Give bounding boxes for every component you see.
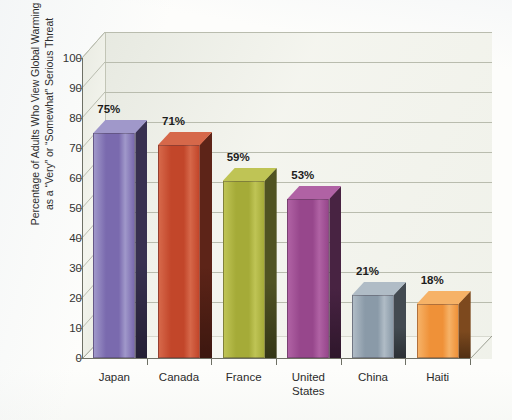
plot-area [82, 20, 492, 365]
x-axis-tick [211, 359, 212, 365]
x-axis-tick [147, 359, 148, 365]
bar-front-face [93, 133, 135, 358]
bar-column[interactable] [93, 120, 147, 358]
bar-value-label: 75% [97, 103, 120, 115]
bar-side-face [200, 132, 212, 358]
bar-value-label: 59% [227, 151, 250, 163]
bar-side-face [394, 282, 406, 358]
bar-column[interactable] [223, 168, 277, 358]
bar-column[interactable] [158, 132, 212, 358]
bar-front-face [223, 181, 265, 358]
x-axis-category-label: Haiti [393, 370, 483, 384]
bar-side-face [265, 168, 277, 358]
x-axis-tick [470, 359, 471, 365]
bar-value-label: 71% [162, 115, 185, 127]
bar-side-face [135, 120, 147, 358]
bar-column[interactable] [352, 282, 406, 358]
bar-front-face [287, 199, 329, 358]
gridline [104, 92, 492, 93]
bar-front-face [417, 304, 459, 358]
bar-side-face [329, 186, 341, 358]
gridline [104, 62, 492, 63]
x-axis-tick [341, 359, 342, 365]
x-axis-tick [405, 359, 406, 365]
bar-value-label: 21% [356, 265, 379, 277]
bar-column[interactable] [417, 291, 471, 358]
bar-front-face [352, 295, 394, 358]
gridline [104, 32, 492, 33]
bar-front-face [158, 145, 200, 358]
bar-chart-figure: Percentage of Adults Who View Global War… [0, 0, 512, 420]
y-axis-tick-labels: 0102030405060708090100 [52, 0, 82, 420]
bar-value-label: 18% [421, 274, 444, 286]
y-axis-line [82, 58, 83, 359]
x-axis-tick [276, 359, 277, 365]
bar-column[interactable] [287, 186, 341, 358]
bar-value-label: 53% [291, 169, 314, 181]
